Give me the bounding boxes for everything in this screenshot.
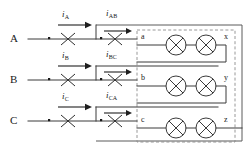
phase-label-c: C <box>10 115 17 126</box>
current-label-ia-subscript: A <box>65 14 69 20</box>
terminal-label-z: z <box>224 116 228 124</box>
polarity-dot-icon-b1 <box>48 78 50 80</box>
circuit-schematic-svg <box>0 0 249 148</box>
current-label-ica-subscript: CA <box>109 95 117 101</box>
terminal-label-a: a <box>141 33 145 41</box>
current-label-ib-subscript: B <box>65 55 69 61</box>
current-direction-arrow-icon-ic <box>58 104 92 110</box>
current-label-ibc-subscript: BC <box>109 54 117 60</box>
polarity-dot-icon-b2 <box>100 78 102 80</box>
polarity-dot-icon-c2 <box>100 119 102 121</box>
terminal-label-y: y <box>224 74 228 82</box>
terminal-label-c: c <box>141 116 145 124</box>
current-label-iab-subscript: AB <box>109 13 117 19</box>
current-label-ibc: iBC <box>106 50 117 59</box>
current-label-iab: iAB <box>106 9 117 18</box>
current-label-ib: iB <box>62 51 69 60</box>
circuit-diagram: A B C iA iB iC iAB iBC iCA a b c x y z <box>0 0 249 148</box>
phase-label-a: A <box>10 33 18 44</box>
polarity-dot-icon-a1 <box>48 37 50 39</box>
current-label-ica: iCA <box>106 91 117 100</box>
current-label-ic: iC <box>62 92 69 101</box>
current-label-ic-subscript: C <box>65 96 69 102</box>
phase-c-secondary-riser <box>96 107 218 121</box>
phase-label-b: B <box>10 74 17 85</box>
terminal-label-x: x <box>224 33 228 41</box>
current-label-ia: iA <box>62 10 69 19</box>
polarity-dot-icon-a2 <box>100 37 102 39</box>
current-direction-arrow-icon-ia <box>58 22 92 28</box>
polarity-dot-icon-c1 <box>48 119 50 121</box>
current-direction-arrow-icon-ib <box>58 63 92 69</box>
terminal-label-b: b <box>141 74 145 82</box>
